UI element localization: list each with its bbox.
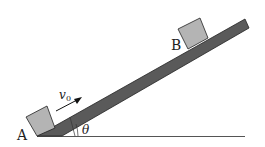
label-b: B [171, 37, 181, 53]
label-a: A [16, 127, 28, 143]
label-velocity: v [59, 88, 66, 102]
label-velocity-sub: 0 [66, 94, 71, 103]
label-angle: θ [82, 123, 90, 137]
incline-diagram: A B v 0 θ [0, 0, 265, 147]
arrow-head-icon [74, 97, 82, 104]
incline-plank [37, 19, 249, 136]
